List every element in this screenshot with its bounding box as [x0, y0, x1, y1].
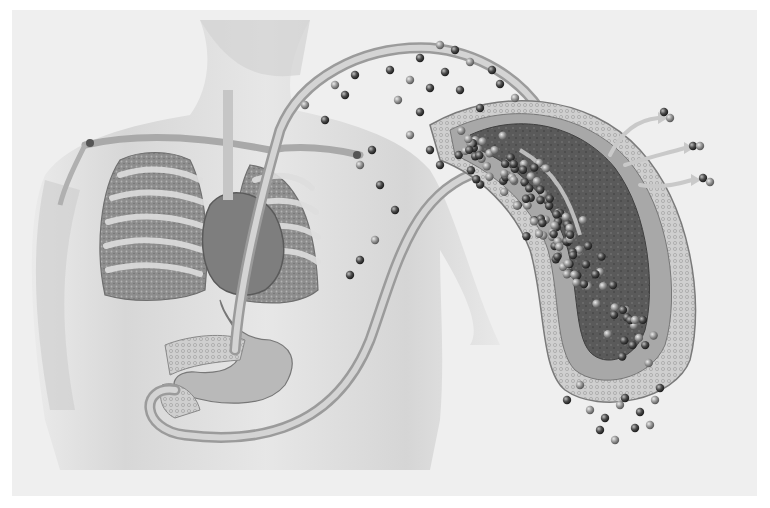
particle — [509, 176, 517, 184]
particle — [636, 408, 644, 416]
particle — [376, 181, 384, 189]
particle — [499, 132, 507, 140]
particle — [586, 406, 594, 414]
particle — [356, 256, 364, 264]
particle — [467, 166, 475, 174]
particle — [483, 162, 491, 170]
particle — [621, 394, 629, 402]
particle — [552, 210, 560, 218]
particle — [645, 359, 653, 367]
illustration-stage — [0, 0, 770, 508]
particle — [530, 217, 538, 225]
particle — [530, 163, 538, 171]
particle — [601, 414, 609, 422]
particle — [611, 303, 619, 311]
particle — [451, 46, 459, 54]
particle — [550, 221, 558, 229]
particle — [599, 282, 607, 290]
particle — [478, 137, 486, 145]
particle — [646, 421, 654, 429]
particle — [321, 116, 329, 124]
particle — [301, 101, 309, 109]
particle — [597, 252, 605, 260]
particle — [611, 436, 619, 444]
particle — [563, 270, 571, 278]
particle — [488, 66, 496, 74]
particle — [651, 396, 659, 404]
particle — [331, 81, 339, 89]
particle — [496, 80, 504, 88]
particle — [475, 151, 483, 159]
particle — [533, 177, 541, 185]
particle — [666, 114, 674, 122]
particle — [525, 184, 533, 192]
particle — [472, 175, 480, 183]
particle — [436, 41, 444, 49]
particle — [500, 169, 508, 177]
particle — [584, 242, 592, 250]
particle — [391, 206, 399, 214]
medical-illustration — [0, 0, 770, 508]
particle — [641, 341, 649, 349]
particle — [465, 146, 473, 154]
particle — [631, 424, 639, 432]
particle — [618, 352, 626, 360]
particle — [491, 146, 499, 154]
particle — [522, 195, 530, 203]
particle — [485, 173, 493, 181]
particle — [441, 68, 449, 76]
particle — [628, 341, 636, 349]
particle — [536, 196, 544, 204]
particle — [536, 186, 544, 194]
particle — [610, 311, 618, 319]
particle — [406, 131, 414, 139]
particle — [416, 54, 424, 62]
particle — [616, 401, 624, 409]
particle — [563, 396, 571, 404]
particle — [464, 135, 472, 143]
particle — [706, 178, 714, 186]
particle — [535, 230, 543, 238]
particle — [346, 271, 354, 279]
particle — [426, 146, 434, 154]
particle — [572, 278, 580, 286]
particle — [639, 316, 647, 324]
particle — [620, 336, 628, 344]
particle — [457, 127, 465, 135]
particle — [394, 96, 402, 104]
particle — [656, 384, 664, 392]
particle — [619, 306, 627, 314]
particle — [596, 426, 604, 434]
particle — [510, 160, 518, 168]
particle — [513, 201, 521, 209]
particle — [522, 232, 530, 240]
particle — [511, 94, 519, 102]
particle — [566, 231, 574, 239]
particle — [631, 316, 639, 324]
particle — [456, 86, 464, 94]
particle — [386, 66, 394, 74]
particle — [649, 331, 657, 339]
particle — [356, 161, 364, 169]
particle — [341, 91, 349, 99]
particle — [553, 252, 561, 260]
particle — [576, 381, 584, 389]
particle — [416, 108, 424, 116]
particle — [562, 213, 570, 221]
particle — [609, 281, 617, 289]
particle — [604, 330, 612, 338]
particle — [476, 104, 484, 112]
particle — [500, 188, 508, 196]
particle — [371, 236, 379, 244]
particle — [660, 108, 668, 116]
particle — [426, 84, 434, 92]
particle — [436, 161, 444, 169]
particle — [579, 216, 587, 224]
particle — [570, 271, 578, 279]
particle — [550, 230, 558, 238]
particle — [555, 243, 563, 251]
particle — [466, 58, 474, 66]
particle — [546, 194, 554, 202]
particle — [501, 160, 509, 168]
particle — [538, 219, 546, 227]
